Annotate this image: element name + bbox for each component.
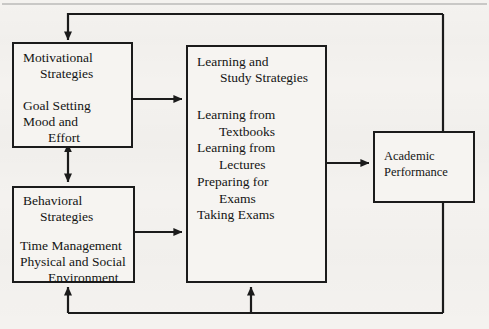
connector-academic-feedback-top	[68, 14, 443, 40]
node-behavioral-heading: BehavioralStrategies	[14, 193, 133, 225]
diagram-canvas: MotivationalStrategies Goal SettingMood …	[0, 0, 489, 329]
node-academic-heading: AcademicPerformance	[375, 149, 473, 180]
node-behavioral-strategies[interactable]: BehavioralStrategies Time ManagementPhys…	[12, 186, 135, 283]
node-motivational-strategies[interactable]: MotivationalStrategies Goal SettingMood …	[12, 42, 133, 148]
node-motivational-heading: MotivationalStrategies	[14, 50, 131, 82]
node-behavioral-body: Time ManagementPhysical and SocialEnviro…	[14, 238, 133, 285]
node-learning-heading: Learning andStudy Strategies	[188, 54, 325, 86]
node-motivational-body: Goal SettingMood andEffort	[14, 98, 131, 145]
node-learning-body: Learning fromTextbooksLearning fromLectu…	[188, 107, 325, 224]
node-learning-study-strategies[interactable]: Learning andStudy Strategies Learning fr…	[186, 45, 327, 283]
node-academic-performance[interactable]: AcademicPerformance	[373, 131, 475, 203]
